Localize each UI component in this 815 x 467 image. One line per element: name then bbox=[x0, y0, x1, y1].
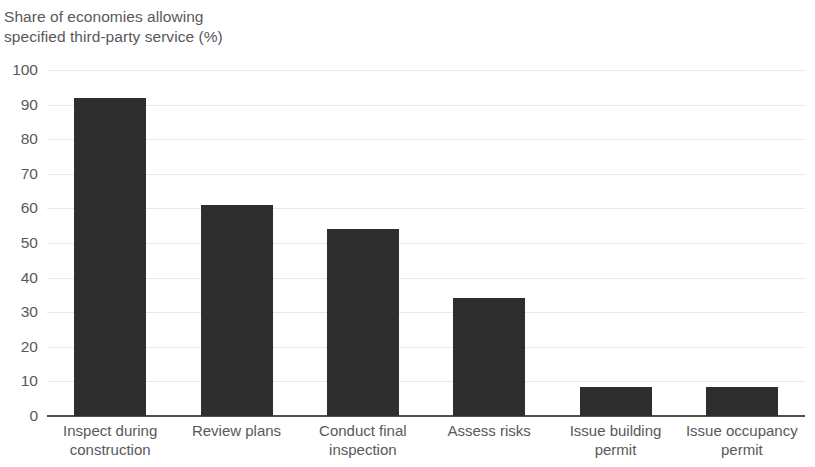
y-tick-label: 10 bbox=[2, 373, 38, 388]
gridline bbox=[47, 243, 805, 244]
y-tick-label: 30 bbox=[2, 304, 38, 319]
y-tick-label: 50 bbox=[2, 235, 38, 250]
axis-baseline bbox=[47, 415, 805, 417]
plot-area bbox=[47, 70, 805, 416]
gridline bbox=[47, 70, 805, 71]
bar bbox=[327, 229, 399, 416]
gridline bbox=[47, 174, 805, 175]
gridline bbox=[47, 105, 805, 106]
x-tick-label: Review plans bbox=[171, 421, 303, 440]
y-tick-label: 70 bbox=[2, 166, 38, 181]
bar bbox=[580, 387, 652, 416]
x-tick-label: Conduct final inspection bbox=[297, 421, 429, 459]
gridline bbox=[47, 347, 805, 348]
bar bbox=[706, 387, 778, 416]
x-tick-label: Issue occupancy permit bbox=[676, 421, 808, 459]
gridline bbox=[47, 139, 805, 140]
x-axis: Inspect during constructionReview plansC… bbox=[47, 421, 805, 467]
y-tick-label: 40 bbox=[2, 270, 38, 285]
y-axis: 1009080706050403020100 bbox=[0, 70, 38, 416]
gridline bbox=[47, 208, 805, 209]
bar bbox=[453, 298, 525, 416]
bar bbox=[201, 205, 273, 416]
gridline bbox=[47, 278, 805, 279]
x-tick-label: Assess risks bbox=[423, 421, 555, 440]
y-tick-label: 60 bbox=[2, 200, 38, 215]
y-tick-label: 0 bbox=[2, 408, 38, 423]
y-tick-label: 80 bbox=[2, 131, 38, 146]
y-tick-label: 90 bbox=[2, 97, 38, 112]
bar-chart: Share of economies allowing specified th… bbox=[0, 0, 815, 467]
x-tick-label: Inspect during construction bbox=[44, 421, 176, 459]
gridline bbox=[47, 381, 805, 382]
chart-title: Share of economies allowing specified th… bbox=[4, 7, 424, 47]
y-tick-label: 20 bbox=[2, 339, 38, 354]
x-tick-label: Issue building permit bbox=[550, 421, 682, 459]
y-tick-label: 100 bbox=[2, 62, 38, 77]
gridline bbox=[47, 312, 805, 313]
bar bbox=[74, 98, 146, 416]
